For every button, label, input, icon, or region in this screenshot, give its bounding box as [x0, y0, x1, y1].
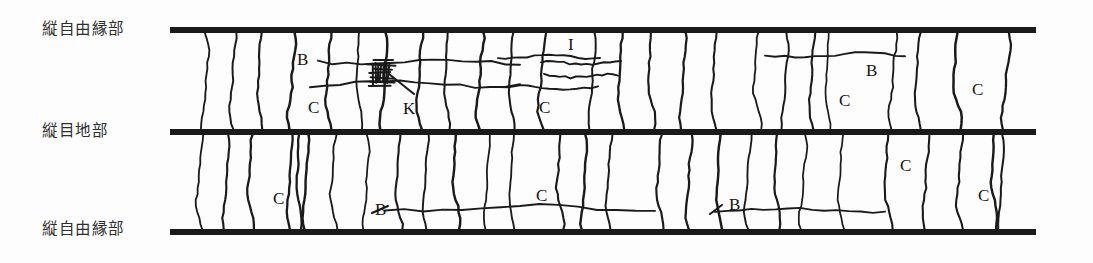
grain-line	[744, 134, 752, 230]
grain-line	[509, 134, 514, 230]
grain-line	[998, 134, 1004, 230]
crack-line-b-upper-mid	[498, 55, 600, 59]
defect-code-c-1: C	[308, 99, 319, 116]
grain-line	[580, 134, 587, 230]
knot-hatch-vertical	[383, 65, 384, 81]
grain-line	[1001, 32, 1011, 130]
grain-line	[679, 32, 687, 130]
defect-code-c-4: C	[972, 81, 983, 98]
grain-line	[923, 134, 930, 230]
grain-line	[201, 32, 210, 130]
defect-code-c-7: C	[900, 157, 911, 174]
grain-line	[423, 134, 429, 230]
grain-line	[395, 134, 403, 230]
grain-line	[330, 134, 338, 230]
crack-line-b-lower-long	[385, 204, 655, 212]
grain-line	[711, 32, 716, 130]
bottom-free-edge-label: 縦自由縁部	[42, 222, 125, 238]
defect-code-b-4: B	[729, 196, 740, 213]
grain-line	[956, 134, 963, 230]
grain-line	[222, 134, 229, 230]
defect-code-c-3: C	[839, 92, 850, 109]
grain-line	[484, 134, 490, 230]
grain-line	[799, 134, 808, 230]
grain-line	[656, 134, 663, 230]
lower-band-grain-group	[196, 134, 1004, 230]
grain-line	[838, 134, 845, 230]
grain-line	[556, 134, 565, 230]
grain-line	[606, 134, 613, 230]
defect-code-i-1: I	[568, 36, 574, 53]
grain-line	[953, 32, 961, 130]
grain-line	[452, 134, 460, 230]
diagram-canvas	[0, 0, 1093, 263]
crack-line-i-upper-1	[541, 61, 621, 65]
crack-line-c-upper-left	[310, 80, 520, 87]
crack-line-b-upper-far	[765, 52, 905, 57]
grain-line	[753, 32, 762, 130]
leader-line-k	[389, 74, 414, 94]
grain-line	[716, 134, 722, 230]
defect-code-c-8: C	[978, 187, 989, 204]
middle-joint-label: 縦目地部	[42, 124, 108, 140]
grain-line	[287, 32, 296, 130]
grain-line	[885, 134, 893, 230]
grain-line	[363, 134, 370, 230]
grain-line	[991, 134, 997, 230]
top-free-edge-label: 縦自由縁部	[42, 22, 125, 38]
defect-code-c-2: C	[539, 99, 550, 116]
defect-code-c-6: C	[536, 187, 547, 204]
grain-line	[416, 32, 423, 130]
crack-line-k-upper-right	[500, 85, 598, 90]
grain-line	[196, 134, 204, 230]
defect-code-b-3: B	[375, 201, 386, 218]
knot-hatch-vertical	[376, 63, 377, 83]
grain-line	[302, 134, 309, 230]
grain-line	[888, 32, 897, 130]
grain-line	[781, 32, 789, 130]
grain-line	[476, 32, 485, 130]
grain-line	[297, 134, 302, 230]
defect-code-c-5: C	[273, 190, 284, 207]
grain-line	[287, 134, 293, 230]
grain-line	[826, 32, 831, 130]
grain-line	[257, 32, 262, 130]
grain-line	[618, 32, 624, 130]
grain-line	[509, 32, 515, 130]
upper-band-grain-group	[201, 32, 1011, 130]
grain-line	[229, 32, 236, 130]
grain-line	[444, 32, 450, 130]
defect-code-b-1: B	[297, 51, 308, 68]
grain-line	[774, 134, 780, 230]
defect-code-b-2: B	[866, 62, 877, 79]
defect-code-k-1: K	[403, 100, 415, 117]
grain-line	[915, 32, 921, 130]
grain-line	[325, 32, 331, 130]
crack-line-i-upper-2	[544, 74, 618, 79]
grain-line	[648, 32, 655, 130]
grain-line	[685, 134, 692, 230]
grain-line	[589, 32, 596, 130]
specimen-defect-map: 縦自由縁部縦目地部縦自由縁部 BCKICBCCCBCBCC	[0, 0, 1093, 263]
grain-line	[809, 32, 815, 130]
grain-line	[247, 134, 254, 230]
